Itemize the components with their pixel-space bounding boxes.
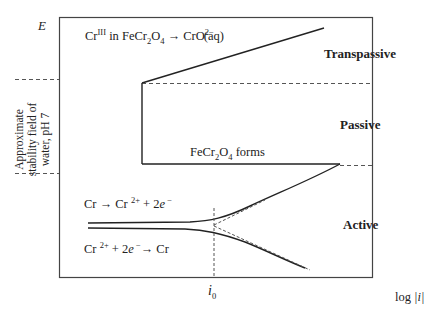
region-transpassive: Transpassive <box>324 47 396 60</box>
y-axis-label: E <box>38 19 46 32</box>
transpassive-reaction-label: CrIII in FeCr2O4 → CrO2−(aq) <box>85 30 224 43</box>
region-passive: Passive <box>340 118 380 131</box>
x-axis-label: log |i| <box>395 291 424 304</box>
film-forms-label: FeCr2O4 forms <box>190 146 265 159</box>
water-stability-label: Approximate stability field of water, pH… <box>13 76 52 204</box>
cathodic-reaction-label: Cr 2+ + 2e −→ Cr <box>84 243 169 256</box>
anodic-reaction-label: Cr → Cr 2+ + 2e − <box>84 198 172 211</box>
anodic-tafel-extrapolation <box>214 200 265 225</box>
exchange-current-label: i0 <box>208 284 216 298</box>
region-active: Active <box>343 218 378 231</box>
